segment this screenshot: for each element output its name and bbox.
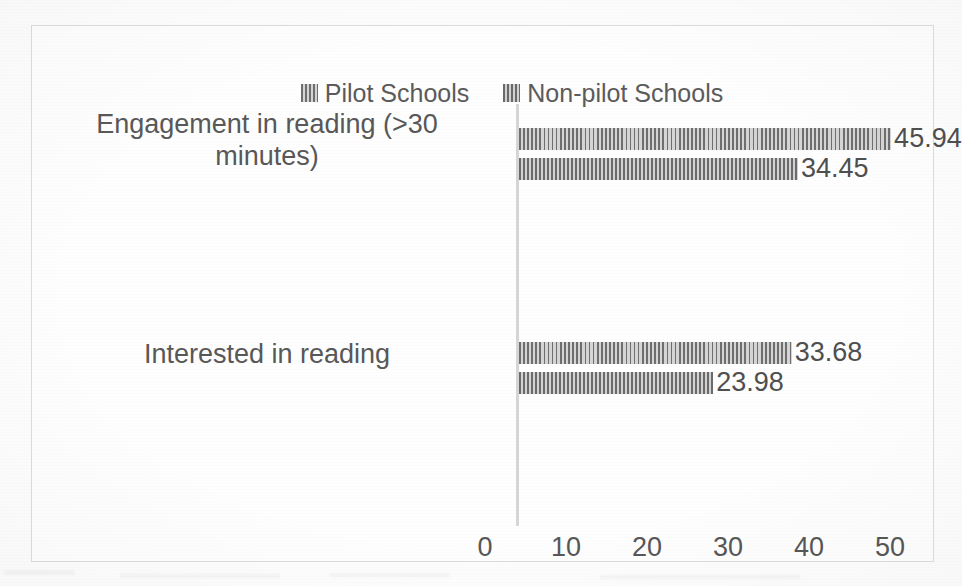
bar-engagement-non-pilot-schools <box>519 158 798 180</box>
bar-interested-pilot-schools <box>519 342 792 364</box>
scan-artifact <box>600 575 800 579</box>
x-axis-tick-40: 40 <box>779 534 839 561</box>
legend-label-non-pilot-schools: Non-pilot Schools <box>527 81 723 106</box>
bar-value-engagement-non-pilot-schools: 34.45 <box>801 157 869 179</box>
category-label-engagement-line1: Engagement in reading (>30 <box>52 109 482 141</box>
category-label-engagement-line2: minutes) <box>52 141 482 173</box>
plot-area: 45.94 34.45 33.68 23.98 <box>516 104 921 526</box>
scan-artifact <box>120 574 280 578</box>
legend-label-pilot-schools: Pilot Schools <box>325 81 470 106</box>
x-axis-tick-30: 30 <box>698 534 758 561</box>
bar-interested-non-pilot-schools <box>519 372 713 394</box>
x-axis-tick-10: 10 <box>536 534 596 561</box>
x-axis-tick-20: 20 <box>617 534 677 561</box>
chart-screenshot: Pilot Schools Non-pilot Schools Engageme… <box>0 0 962 586</box>
bar-value-engagement-pilot-schools: 45.94 <box>894 127 962 149</box>
x-axis-tick-0: 0 <box>455 534 515 561</box>
legend-entry-non-pilot-schools: Non-pilot Schools <box>503 81 723 106</box>
legend-swatch-icon-pilot-schools <box>301 84 318 102</box>
category-label-engagement-in-reading: Engagement in reading (>30 minutes) <box>52 109 482 173</box>
legend-entry-pilot-schools: Pilot Schools <box>301 81 470 106</box>
chart-frame: Pilot Schools Non-pilot Schools Engageme… <box>31 25 934 562</box>
legend-swatch-icon-non-pilot-schools <box>503 84 520 102</box>
category-label-interested-line1: Interested in reading <box>52 339 482 371</box>
x-axis-tick-50: 50 <box>860 534 920 561</box>
category-label-interested-in-reading: Interested in reading <box>52 339 482 371</box>
bar-value-interested-pilot-schools: 33.68 <box>795 341 863 363</box>
bar-engagement-pilot-schools <box>519 128 891 150</box>
bar-value-interested-non-pilot-schools: 23.98 <box>716 371 784 393</box>
scan-artifact <box>4 570 74 575</box>
scan-artifact <box>330 573 450 577</box>
